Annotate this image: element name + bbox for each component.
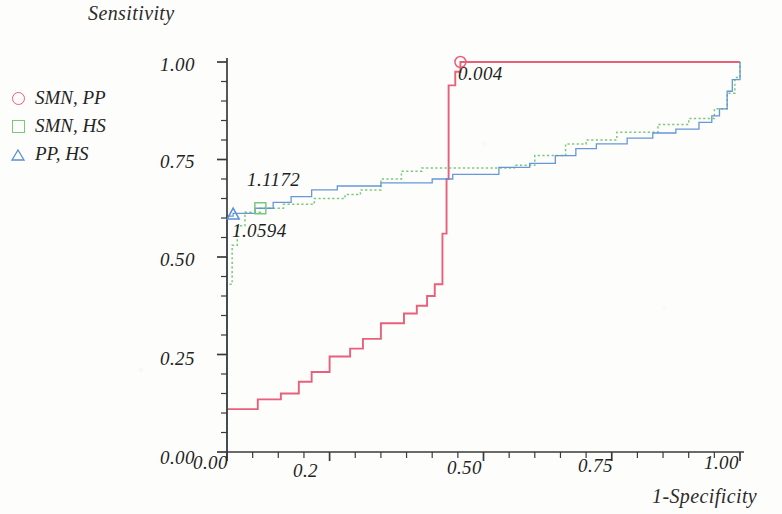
x-tick-label-0.2: 0.2 [293, 460, 318, 482]
plot-canvas [0, 0, 782, 514]
legend: SMN, PP SMN, HS PP, HS [10, 84, 106, 168]
annotation-red-cutoff: 0.004 [458, 63, 503, 85]
x-tick-label-0.75: 0.75 [578, 455, 613, 477]
y-axis-title: Sensitivity [88, 2, 175, 25]
y-tick-label-0.75: 0.75 [160, 151, 195, 173]
x-tick-label-0.50: 0.50 [447, 457, 482, 479]
legend-item-smn-pp: SMN, PP [10, 84, 106, 112]
x-tick-label-0.00: 0.00 [193, 452, 228, 474]
annotation-blue-cutoff: 1.0594 [232, 220, 287, 242]
legend-label-smn-hs: SMN, HS [35, 115, 106, 137]
roc-curve-figure: Sensitivity 1-Specificity 1.00 0.75 0.50… [0, 0, 782, 514]
triangle-marker-icon [10, 146, 26, 162]
x-tick-label-1.00: 1.00 [704, 452, 739, 474]
legend-label-smn-pp: SMN, PP [35, 87, 106, 109]
x-axis-title: 1-Specificity [652, 485, 757, 508]
circle-marker-icon [10, 90, 26, 106]
y-tick-label-0.50: 0.50 [160, 249, 195, 271]
y-tick-label-0.00: 0.00 [160, 447, 195, 469]
square-marker-icon [10, 118, 26, 134]
y-tick-label-1.00: 1.00 [160, 54, 195, 76]
y-tick-label-0.25: 0.25 [160, 348, 195, 370]
legend-item-smn-hs: SMN, HS [10, 112, 106, 140]
annotation-green-cutoff: 1.1172 [247, 169, 300, 191]
legend-item-pp-hs: PP, HS [10, 140, 106, 168]
legend-label-pp-hs: PP, HS [35, 143, 88, 165]
